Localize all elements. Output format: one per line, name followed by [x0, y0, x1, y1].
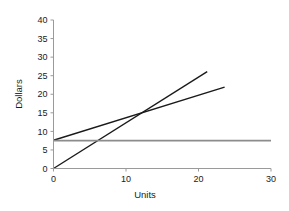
- line-chart: 0510152025303540 0102030 Units Dollars: [0, 0, 289, 211]
- y-tick-label: 25: [37, 71, 47, 81]
- x-tick-label: 10: [121, 174, 131, 184]
- y-tick-label: 35: [37, 34, 47, 44]
- x-axis-title: Units: [134, 189, 156, 200]
- y-tick-label: 10: [37, 127, 47, 137]
- y-tick-label: 15: [37, 108, 47, 118]
- y-tick-label: 30: [37, 52, 47, 62]
- x-tick-label: 30: [266, 174, 276, 184]
- y-tick-label: 5: [42, 145, 47, 155]
- y-tick-label: 40: [37, 15, 47, 25]
- y-axis-title: Dollars: [13, 79, 24, 109]
- chart-container: 0510152025303540 0102030 Units Dollars: [0, 0, 289, 211]
- x-tick-label: 0: [51, 174, 56, 184]
- x-tick-label: 20: [193, 174, 203, 184]
- y-tick-label: 0: [42, 164, 47, 174]
- chart-background: [0, 0, 289, 211]
- y-tick-label: 20: [37, 89, 47, 99]
